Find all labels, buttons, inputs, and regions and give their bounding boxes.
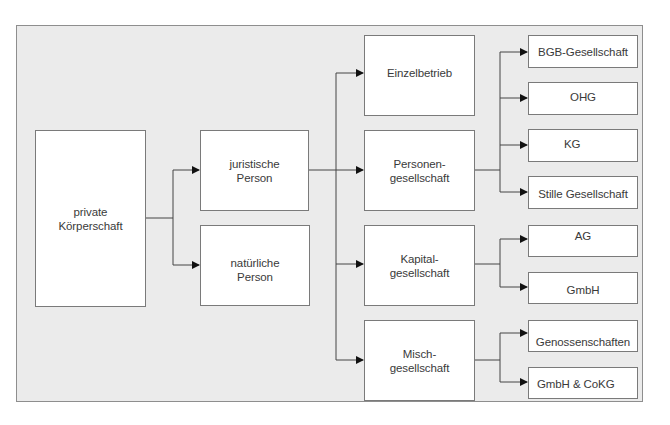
node-label-line: Genossenschaften [536, 335, 630, 351]
node-label-line: Misch- [390, 347, 450, 361]
node-label-line: AG [575, 226, 591, 243]
node-label-line: Person [229, 171, 279, 185]
node-ohg: OHG [528, 82, 638, 115]
node-label-line: juristische [229, 157, 279, 171]
node-label-line: BGB-Gesellschaft [538, 45, 628, 59]
node-label-line: private [59, 205, 123, 219]
node-kg: KG [528, 129, 638, 162]
node-personengesellschaft: Personen- gesellschaft [364, 130, 475, 211]
node-stille-gesellschaft: Stille Gesellschaft [528, 176, 638, 209]
node-ag: AG [528, 225, 638, 257]
node-gmbh-cokg: GmbH & CoKG [528, 367, 638, 399]
node-bgb-gesellschaft: BGB-Gesellschaft [528, 35, 638, 68]
node-gmbh: GmbH [528, 272, 638, 304]
node-label-line: gesellschaft [390, 361, 450, 375]
node-label-line: gesellschaft [390, 171, 450, 185]
node-private-koerperschaft: private Körperschaft [35, 130, 146, 307]
node-label-line: gesellschaft [390, 266, 450, 280]
node-juristische-person: juristische Person [200, 130, 309, 211]
node-mischgesellschaft: Misch- gesellschaft [364, 320, 475, 401]
node-label-line: GmbH & CoKG [529, 375, 615, 391]
node-label-line: Stille Gesellschaft [538, 185, 628, 201]
node-label-line: OHG [570, 83, 596, 104]
node-einzelbetrieb: Einzelbetrieb [364, 35, 475, 116]
node-label-line: Kapital- [390, 252, 450, 266]
node-genossenschaften: Genossenschaften [528, 320, 638, 352]
node-label-line: Körperschaft [59, 219, 123, 233]
node-label-line: Personen- [390, 157, 450, 171]
node-label-line: GmbH [567, 280, 600, 297]
node-kapitalgesellschaft: Kapital- gesellschaft [364, 225, 475, 306]
node-label-line: Person [231, 270, 280, 284]
node-label-line: natürliche [231, 256, 280, 270]
node-label-line: KG [529, 130, 580, 151]
node-natuerliche-person: natürliche Person [200, 225, 310, 306]
node-label-line: Einzelbetrieb [387, 66, 452, 80]
